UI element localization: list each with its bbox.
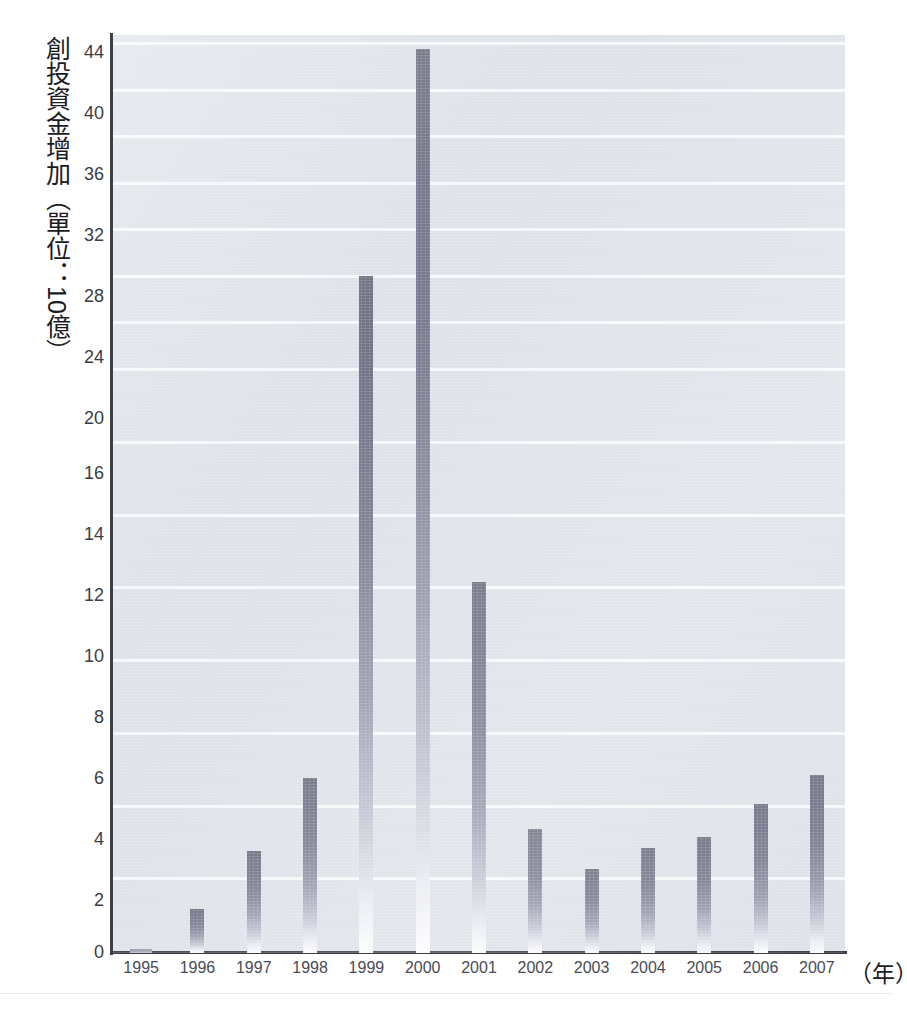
gridline <box>113 228 845 231</box>
y-tick-label: 4 <box>56 829 104 850</box>
y-tick-label: 10 <box>56 646 104 667</box>
y-tick-label: 2 <box>56 890 104 911</box>
plot-area <box>113 35 845 953</box>
x-tick-label: 2005 <box>674 959 734 977</box>
bar <box>754 804 768 953</box>
bar <box>585 869 599 953</box>
bar <box>359 276 373 953</box>
x-axis-unit-label: （年） <box>849 955 907 989</box>
gridline <box>113 42 845 45</box>
y-tick-label: 44 <box>56 42 104 63</box>
gridline <box>113 514 845 517</box>
bar <box>528 829 542 953</box>
x-tick-label: 1995 <box>111 959 171 977</box>
y-tick-label: 12 <box>56 585 104 606</box>
y-tick-label: 6 <box>56 768 104 789</box>
y-tick-label: 24 <box>56 347 104 368</box>
gridline <box>113 368 845 371</box>
x-tick-label: 2003 <box>562 959 622 977</box>
x-tick-label: 2004 <box>618 959 678 977</box>
y-tick-label: 16 <box>56 463 104 484</box>
x-tick-label: 1998 <box>280 959 340 977</box>
gridline <box>113 89 845 92</box>
x-tick-label: 2002 <box>505 959 565 977</box>
gridline <box>113 135 845 138</box>
x-tick-label: 1999 <box>336 959 396 977</box>
x-tick-label: 1996 <box>167 959 227 977</box>
y-tick-label: 0 <box>56 942 104 963</box>
footer-caption <box>26 1006 866 1018</box>
y-axis-tick-labels: 44 40 36 32 28 24 20 16 14 12 10 8 6 4 2… <box>54 0 104 1019</box>
bar <box>472 582 486 953</box>
y-axis-line <box>110 33 113 955</box>
gridline <box>113 275 845 278</box>
x-tick-label: 2000 <box>393 959 453 977</box>
y-tick-label: 40 <box>56 103 104 124</box>
bar <box>247 851 261 953</box>
footer-divider <box>0 993 893 994</box>
x-tick-label: 2007 <box>787 959 847 977</box>
bar <box>697 837 711 953</box>
y-tick-label: 28 <box>56 286 104 307</box>
y-tick-label: 14 <box>56 524 104 545</box>
y-tick-label: 8 <box>56 707 104 728</box>
x-tick-label: 2006 <box>731 959 791 977</box>
gridline <box>113 182 845 185</box>
gridline <box>113 321 845 324</box>
bar <box>810 775 824 953</box>
bar <box>641 848 655 953</box>
x-axis-tick-labels: 1995199619971998199920002001200220032004… <box>113 959 845 989</box>
bar <box>416 49 430 954</box>
x-tick-label: 2001 <box>449 959 509 977</box>
x-tick-label: 1997 <box>224 959 284 977</box>
y-tick-label: 36 <box>56 164 104 185</box>
gridline <box>113 441 845 444</box>
bar <box>190 909 204 953</box>
y-tick-label: 32 <box>56 225 104 246</box>
y-tick-label: 20 <box>56 408 104 429</box>
bar <box>303 778 317 953</box>
bar <box>130 949 152 953</box>
